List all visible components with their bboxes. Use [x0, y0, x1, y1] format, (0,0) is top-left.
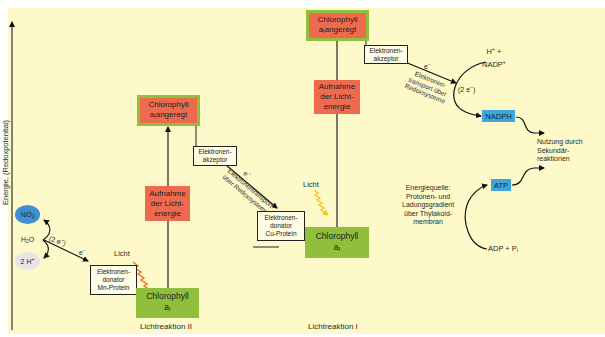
- psI-caption: Lichtreaktion I: [308, 322, 358, 331]
- psI-transport-electron: e−: [424, 61, 431, 72]
- oxygen-bubble: ½O2: [15, 205, 40, 224]
- psII-caption: Lichtreaktion II: [140, 322, 192, 331]
- psI-light-absorption: Aufnahme der Licht- energie: [314, 80, 360, 114]
- psI-light-label: Licht: [303, 181, 319, 190]
- energy-source-label: Energiequelle: Protonen- und Ladungsgrad…: [402, 184, 454, 227]
- psI-chlorophyll-ground: Chlorophyll aI: [305, 227, 369, 258]
- energy-axis-label: Energie, (Redoxpotential): [2, 120, 11, 205]
- psII-light-label: Licht: [114, 250, 130, 259]
- water-label: H2O: [21, 236, 34, 247]
- psII-chlorophyll-ground: Chlorophyll aI: [136, 288, 199, 318]
- usage-label: Nutzung durch Sekundär- reaktionen: [537, 138, 583, 164]
- psII-electron-acceptor: Elektronen- akzeptor: [193, 146, 237, 166]
- z-scheme-diagram: Energie, (Redoxpotential) Chlorophyll aI…: [0, 0, 605, 337]
- psII-light-absorption: Aufnahme der Licht- energie: [145, 186, 190, 221]
- psI-electron-acceptor: Elektronen- akzeptor: [364, 45, 408, 64]
- nadph-box: NADPH: [482, 110, 515, 122]
- protons-bubble: 2 H+: [15, 252, 40, 270]
- psII-chlorophyll-excited: Chlorophyll aIangeregt: [137, 95, 200, 126]
- nadp-two-electrons: (2 e−): [458, 84, 475, 95]
- adp-input: ADP + Pi: [488, 245, 518, 255]
- psI-chlorophyll-excited: Chlorophyll aIangeregt: [306, 10, 369, 41]
- nadp-input: H+ + NADP+: [482, 44, 506, 70]
- atp-synthesis-arrow: [465, 185, 487, 249]
- psI-electron-donor: Elektronen- donator Cu-Protein: [257, 211, 305, 241]
- psII-electron-donor: Elektronen- donator Mn-Protein: [90, 265, 137, 295]
- psI-light-zigzag: [314, 190, 328, 215]
- water-electron: e−: [79, 247, 86, 258]
- atp-box: ATP: [491, 179, 511, 191]
